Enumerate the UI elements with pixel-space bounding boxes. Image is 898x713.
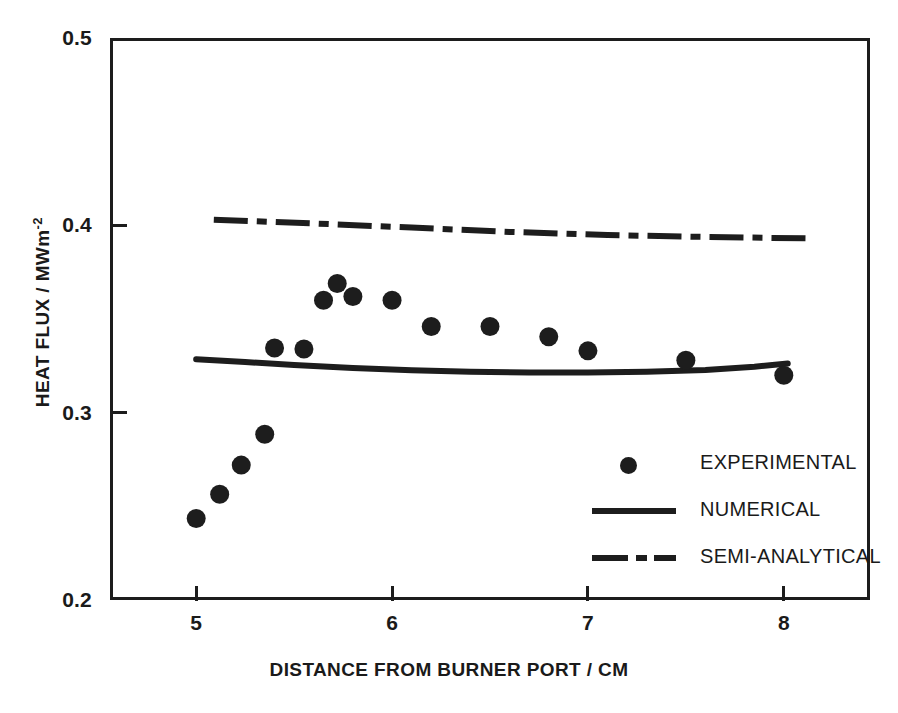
legend-key-solid-line bbox=[592, 499, 676, 523]
legend-item-numerical: NUMERICAL bbox=[592, 499, 892, 546]
legend-label-numerical: NUMERICAL bbox=[700, 498, 821, 521]
y-axis-title: HEAT FLUX / MWm-2 bbox=[30, 112, 54, 512]
chart-figure: 0.20.30.40.5 5678 HEAT FLUX / MWm-2 DIST… bbox=[0, 0, 898, 713]
dash-dot-line-icon bbox=[592, 555, 676, 561]
filled-circle-marker-icon bbox=[620, 457, 637, 474]
legend-key-marker bbox=[592, 452, 676, 476]
x-tick-mark bbox=[586, 586, 589, 601]
y-axis-title-text: HEAT FLUX / MWm bbox=[32, 230, 53, 408]
legend-key-dash-dot-line bbox=[592, 546, 676, 570]
legend-label-experimental: EXPERIMENTAL bbox=[700, 451, 857, 474]
x-tick-label: 6 bbox=[372, 612, 412, 633]
legend-item-semi-analytical: SEMI-ANALYTICAL bbox=[592, 546, 892, 593]
y-tick-label: 0.5 bbox=[26, 27, 92, 48]
y-tick-mark bbox=[110, 224, 127, 227]
x-axis-title: DISTANCE FROM BURNER PORT / CM bbox=[0, 659, 898, 681]
x-tick-label: 5 bbox=[176, 612, 216, 633]
y-axis-title-exponent: -2 bbox=[30, 217, 45, 229]
solid-line-icon bbox=[592, 508, 676, 514]
x-tick-label: 7 bbox=[568, 612, 608, 633]
x-tick-label: 8 bbox=[764, 612, 804, 633]
x-tick-mark bbox=[391, 586, 394, 601]
legend-item-experimental: EXPERIMENTAL bbox=[592, 452, 892, 499]
chart-legend: EXPERIMENTAL NUMERICAL SEMI-ANALYTICAL bbox=[592, 452, 892, 593]
legend-label-semi-analytical: SEMI-ANALYTICAL bbox=[700, 545, 881, 568]
y-tick-mark bbox=[110, 411, 127, 414]
x-tick-mark bbox=[195, 586, 198, 601]
y-tick-label: 0.2 bbox=[26, 589, 92, 610]
